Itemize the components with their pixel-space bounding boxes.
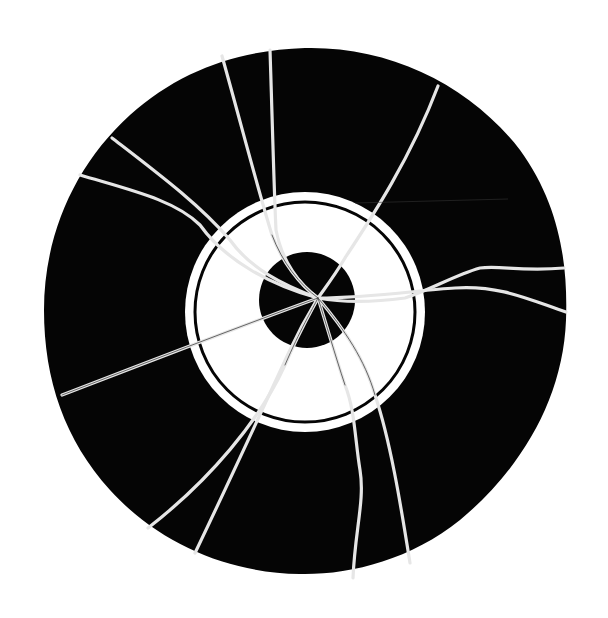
cracked-disc-illustration xyxy=(0,0,608,618)
